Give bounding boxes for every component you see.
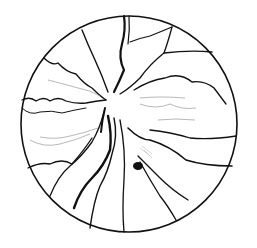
fundus-boundary xyxy=(21,16,237,232)
retina-illustration xyxy=(0,0,257,248)
hatched-area xyxy=(140,146,152,158)
fine-vessels xyxy=(30,80,196,145)
major-vessels xyxy=(22,16,236,232)
fundus-drawing: Line drawing of a retinal fundus with bl… xyxy=(0,0,257,248)
lesion-spot xyxy=(133,162,143,170)
